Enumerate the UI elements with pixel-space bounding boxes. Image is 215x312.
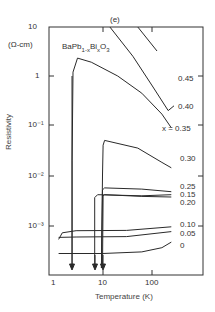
series-label-0: 0 [180,242,184,250]
y-tick-10: 10 [28,23,37,31]
y-tick-1e-1: 10⁻¹ [28,121,44,129]
x-axis-label: Temperature (K) [95,292,153,301]
curve-0.20 [103,195,172,268]
curve-0.40 [110,27,174,111]
compound-formula: BaPb1-xBixO3 [62,42,110,53]
curve-0.30 [101,140,171,268]
series-label-040: 0.40 [178,103,194,111]
y-unit-label: (Ω-cm) [8,40,33,49]
x-tick-10: 10 [98,279,107,287]
data-curves [59,27,174,268]
x-tick-100: 100 [145,279,158,287]
y-axis-label: Resistivity [4,114,13,150]
curve-0.05 [59,232,172,238]
x-ticks [103,27,152,275]
series-label-030: 0.30 [180,155,196,163]
transition-arrows [70,76,106,270]
y-tick-1e-2: 10⁻² [28,172,44,180]
panel-label: (e) [110,15,120,24]
series-label-035: x = 0.35 [162,125,191,133]
curve-0 [59,242,172,253]
series-label-045: 0.45 [178,75,194,83]
resistivity-chart: (e) (Ω-cm) BaPb1-xBixO3 Resistivity Temp… [0,0,215,312]
y-tick-1: 1 [35,72,39,80]
series-label-020: 0.20 [180,199,196,207]
curve-0.45 [138,27,157,51]
series-label-010: 0.10 [180,221,196,229]
series-label-005: 0.05 [180,230,196,238]
x-tick-1: 1 [51,279,55,287]
y-tick-1e-3: 10⁻³ [28,222,44,230]
curve-0.15 [95,195,172,268]
